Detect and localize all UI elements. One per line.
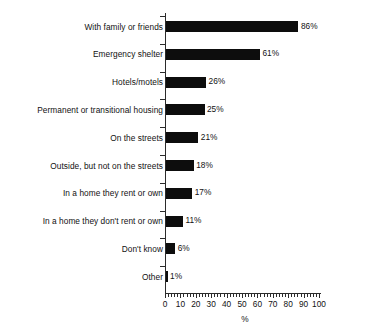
bar-row[interactable]: 26% [166, 77, 320, 88]
x-axis-minor-tick [233, 294, 234, 297]
category-label: Emergency shelter [93, 49, 163, 59]
bar[interactable] [166, 21, 298, 32]
x-axis-minor-tick [230, 294, 231, 297]
x-axis-minor-tick [297, 294, 298, 297]
bar-row[interactable]: 1% [166, 271, 320, 282]
bar[interactable] [166, 271, 168, 282]
x-axis-minor-tick [248, 294, 249, 297]
x-axis-minor-tick [190, 294, 191, 297]
bar-value-label: 21% [201, 132, 218, 143]
x-axis-minor-tick [208, 294, 209, 297]
x-axis-minor-tick [245, 294, 246, 297]
bar-row[interactable]: 17% [166, 188, 320, 199]
x-axis-minor-tick [254, 294, 255, 297]
bar-value-label: 11% [185, 215, 201, 226]
category-label: Don't know [122, 244, 163, 254]
bar[interactable] [166, 160, 194, 171]
x-axis-minor-tick [316, 294, 317, 297]
x-axis-major-tick [227, 294, 228, 298]
x-axis-minor-tick [171, 294, 172, 297]
category-label: Hotels/motels [112, 77, 163, 87]
x-axis-minor-tick [214, 294, 215, 297]
bar-value-label: 86% [301, 21, 318, 32]
bar-row[interactable]: 86% [166, 21, 320, 32]
bar-row[interactable]: 11% [166, 216, 320, 227]
y-axis-tick [160, 266, 165, 267]
x-axis-minor-tick [217, 294, 218, 297]
plot-area: 86%61%26%25%21%18%17%11%6%1% [166, 13, 320, 293]
x-axis-minor-tick [193, 294, 194, 297]
category-label: Outside, but not on the streets [50, 161, 163, 171]
bar-value-label: 26% [209, 76, 226, 87]
x-axis-minor-tick [224, 294, 225, 297]
category-axis-labels: With family or friendsEmergency shelterH… [0, 0, 163, 332]
x-axis-minor-tick [294, 294, 295, 297]
category-label: In a home they rent or own [63, 188, 163, 198]
category-label: Permanent or transitional housing [37, 105, 163, 115]
bar-value-label: 6% [178, 243, 190, 254]
x-axis-major-tick [288, 294, 289, 298]
bar-value-label: 1% [170, 271, 182, 282]
y-axis-tick [160, 72, 165, 73]
bar[interactable] [166, 188, 192, 199]
x-axis-minor-tick [313, 294, 314, 297]
bar[interactable] [166, 132, 198, 143]
x-axis-tick-label: 50 [237, 299, 246, 309]
x-axis-minor-tick [239, 294, 240, 297]
bar-row[interactable]: 21% [166, 132, 320, 143]
x-axis-tick-label: 70 [268, 299, 277, 309]
x-axis-minor-tick [220, 294, 221, 297]
x-axis-minor-tick [168, 294, 169, 297]
bar-value-label: 17% [195, 187, 212, 198]
y-axis-tick [160, 127, 165, 128]
x-axis-minor-tick [267, 294, 268, 297]
x-axis-major-tick [319, 294, 320, 298]
y-axis-tick [160, 99, 165, 100]
bar[interactable] [166, 243, 175, 254]
x-axis-minor-tick [307, 294, 308, 297]
x-axis-tick-label: 30 [207, 299, 216, 309]
x-axis-minor-tick [310, 294, 311, 297]
x-axis-title: % [241, 314, 248, 324]
bar-row[interactable]: 18% [166, 160, 320, 171]
x-axis-tick-label: 40 [222, 299, 231, 309]
bar-value-label: 61% [262, 48, 279, 59]
x-axis-minor-tick [276, 294, 277, 297]
x-axis-minor-tick [187, 294, 188, 297]
x-axis-minor-tick [260, 294, 261, 297]
x-axis-major-tick [180, 294, 181, 298]
x-axis-minor-tick [205, 294, 206, 297]
x-axis-minor-tick [282, 294, 283, 297]
bar-row[interactable]: 61% [166, 49, 320, 60]
x-axis-minor-tick [301, 294, 302, 297]
bar-value-label: 25% [207, 104, 224, 115]
x-axis-major-tick [304, 294, 305, 298]
category-label: With family or friends [84, 22, 163, 32]
x-axis-tick-label: 0 [163, 299, 168, 309]
y-axis-tick [160, 183, 165, 184]
bar[interactable] [166, 77, 206, 88]
x-axis-minor-tick [270, 294, 271, 297]
x-axis-major-tick [165, 294, 166, 298]
bar-row[interactable]: 25% [166, 104, 320, 115]
y-axis-tick [160, 211, 165, 212]
bar[interactable] [166, 49, 260, 60]
x-axis-minor-tick [202, 294, 203, 297]
x-axis-tick-label: 90 [299, 299, 308, 309]
x-axis-tick-label: 100 [312, 299, 326, 309]
category-label: In a home they don't rent or own [43, 216, 163, 226]
bar[interactable] [166, 216, 183, 227]
bar[interactable] [166, 104, 205, 115]
x-axis-tick-label: 10 [176, 299, 185, 309]
y-axis-tick [160, 44, 165, 45]
x-axis-major-tick [273, 294, 274, 298]
bar-row[interactable]: 6% [166, 243, 320, 254]
x-axis-tick-label: 60 [253, 299, 262, 309]
category-label: On the streets [110, 133, 163, 143]
x-axis-minor-tick [177, 294, 178, 297]
x-axis-minor-tick [264, 294, 265, 297]
x-axis-minor-tick [236, 294, 237, 297]
bar-value-label: 18% [196, 160, 213, 171]
x-axis-minor-tick [291, 294, 292, 297]
x-axis-minor-tick [285, 294, 286, 297]
